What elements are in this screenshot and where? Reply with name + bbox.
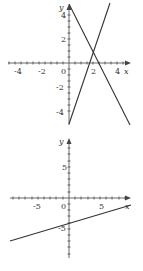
x-axis-arrow-icon — [125, 196, 131, 201]
x-axis-label: x — [125, 202, 130, 211]
y-tick-label: 4 — [61, 11, 66, 20]
y-axis-arrow-icon — [67, 138, 72, 144]
x-tick-label: -2 — [38, 67, 46, 76]
x-axis-label: x — [124, 67, 129, 76]
chart-bottom: y x -5 0 5 5 -5 — [0, 135, 143, 271]
y-tick-label: 2 — [61, 35, 66, 44]
y-axis — [68, 8, 71, 125]
x-tick-label: 5 — [99, 202, 104, 211]
x-tick-label: 0 — [61, 67, 66, 76]
x-tick-label: 0 — [61, 202, 66, 211]
x-axis-arrow-icon — [125, 61, 131, 66]
x-tick-label: -5 — [33, 202, 41, 211]
series-line-1 — [69, 4, 130, 125]
y-tick-label: -4 — [56, 108, 64, 117]
y-axis — [68, 142, 71, 258]
y-tick-label: 5 — [62, 163, 67, 172]
y-axis-label: y — [58, 137, 64, 146]
y-tick-label: -2 — [56, 83, 64, 92]
x-tick-label: -4 — [14, 67, 22, 76]
chart-top: y x -4 -2 0 2 4 4 2 -2 -4 — [0, 0, 143, 135]
x-tick-label: 4 — [115, 67, 120, 76]
y-tick-label: -5 — [58, 224, 66, 233]
x-axis — [8, 62, 128, 65]
x-tick-label: 2 — [91, 67, 96, 76]
